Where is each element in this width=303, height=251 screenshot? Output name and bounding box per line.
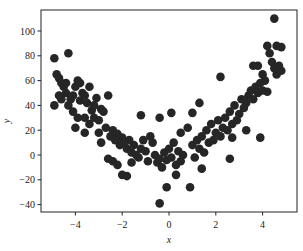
data-point	[141, 147, 150, 156]
data-points	[50, 14, 286, 207]
data-point	[113, 161, 122, 170]
data-point	[162, 183, 171, 192]
data-point	[216, 73, 225, 82]
data-point	[104, 154, 113, 163]
y-tick-label: 100	[20, 26, 35, 37]
data-point	[62, 79, 71, 88]
data-point	[158, 163, 167, 172]
x-tick-label: 4	[260, 219, 265, 230]
data-point	[155, 199, 164, 208]
data-point	[144, 157, 153, 166]
y-axis-label: y	[1, 118, 12, 124]
data-point	[80, 128, 89, 137]
data-point	[95, 116, 104, 125]
data-point	[85, 83, 94, 92]
data-point	[277, 66, 286, 75]
data-point	[256, 133, 265, 142]
data-point	[167, 109, 176, 118]
scatter-chart: −4−2024 −40−20020406080100 x y	[0, 0, 303, 251]
y-tick-label: 80	[25, 50, 35, 61]
data-point	[76, 96, 85, 105]
x-axis-label: x	[166, 234, 172, 245]
data-point	[97, 138, 106, 147]
data-point	[190, 153, 199, 162]
data-point	[216, 132, 225, 141]
data-point	[69, 91, 78, 100]
data-point	[155, 114, 164, 123]
data-point	[228, 133, 237, 142]
data-point	[92, 94, 101, 103]
y-tick-label: 40	[25, 100, 35, 111]
data-point	[242, 126, 251, 135]
data-point	[99, 107, 108, 116]
data-point	[167, 153, 176, 162]
data-point	[127, 158, 136, 167]
y-tick-label: −40	[19, 199, 35, 210]
data-point	[226, 154, 235, 163]
data-point	[169, 138, 178, 147]
data-point	[148, 138, 157, 147]
data-point	[188, 109, 197, 118]
x-axis-ticks: −4−2024	[70, 212, 265, 230]
data-point	[95, 128, 104, 137]
data-point	[195, 99, 204, 108]
data-point	[270, 14, 279, 23]
x-tick-label: −4	[70, 219, 81, 230]
x-tick-label: 2	[213, 219, 218, 230]
y-axis-ticks: −40−20020406080100	[19, 26, 41, 211]
data-point	[123, 172, 132, 181]
y-tick-label: −20	[19, 174, 35, 185]
data-point	[186, 183, 195, 192]
data-point	[50, 54, 59, 63]
data-point	[254, 61, 263, 70]
data-point	[76, 79, 85, 88]
data-point	[263, 42, 272, 51]
data-point	[263, 87, 272, 96]
data-point	[230, 101, 239, 110]
y-tick-label: 60	[25, 75, 35, 86]
y-tick-label: 20	[25, 125, 35, 136]
data-point	[183, 123, 192, 132]
data-point	[176, 128, 185, 137]
data-point	[265, 49, 274, 58]
data-point	[71, 123, 80, 132]
data-point	[261, 76, 270, 85]
y-tick-label: 0	[30, 150, 35, 161]
data-point	[197, 164, 206, 173]
data-point	[172, 171, 181, 180]
data-point	[64, 49, 73, 58]
data-point	[50, 101, 59, 110]
data-point	[104, 91, 113, 100]
data-point	[134, 153, 143, 162]
data-point	[200, 148, 209, 157]
data-point	[137, 111, 146, 120]
x-tick-label: −2	[117, 219, 128, 230]
data-point	[277, 43, 286, 52]
x-tick-label: 0	[167, 219, 172, 230]
data-point	[55, 91, 64, 100]
data-point	[179, 151, 188, 160]
